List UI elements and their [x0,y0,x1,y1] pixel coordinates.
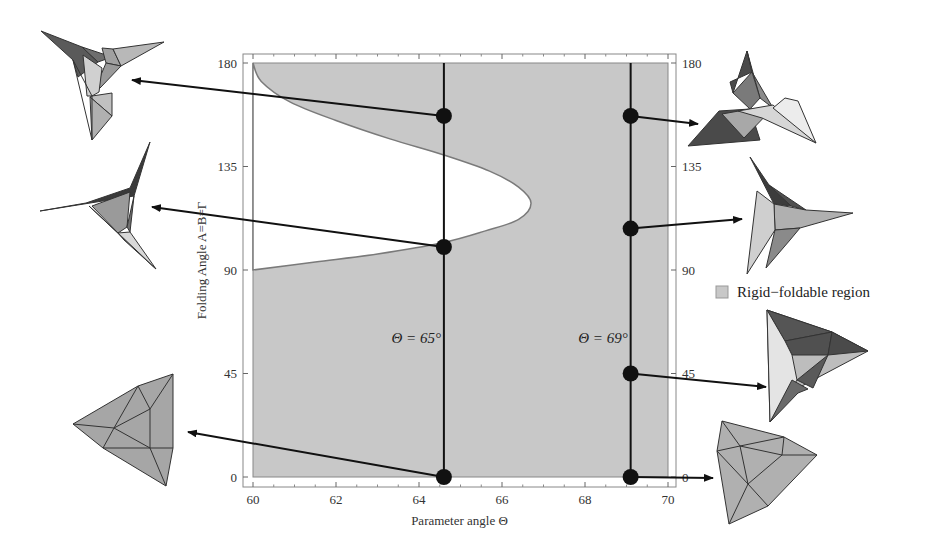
x-axis-label: Parameter angle Θ [411,513,508,528]
x-tick-label: 70 [662,492,675,507]
y-tick-label: 90 [224,263,237,278]
x-tick-label: 64 [413,492,427,507]
state-point-0-1 [436,239,452,255]
state-point-1-0 [623,108,639,124]
figure: 6062646668700045459090135135180180 Θ = 6… [0,0,931,558]
origami-inset-fold-69-45 [767,310,868,422]
origami-inset-fold-65-157 [41,31,164,140]
state-point-1-2 [623,366,639,382]
origami-inset-fold-69-157 [688,51,816,146]
y-tick-label: 135 [218,159,238,174]
y-tick-label-right: 180 [682,56,702,71]
y-tick-label-right: 135 [682,159,702,174]
y-tick-label: 180 [218,56,238,71]
y-tick-label: 45 [224,366,237,381]
origami-inset-fold-65-100 [40,142,156,269]
y-tick-label-right: 90 [682,263,695,278]
x-tick-label: 66 [496,492,510,507]
legend-label: Rigid−foldable region [737,284,871,300]
theta-annotation-1: Θ = 69° [578,330,627,346]
y-tick-label: 0 [231,470,238,485]
legend-swatch [716,286,728,298]
origami-inset-fold-65-0 [73,374,173,486]
x-tick-label: 60 [247,492,260,507]
x-tick-label: 62 [330,492,343,507]
arrow-fold-69-0 [631,477,713,478]
x-tick-label: 68 [579,492,592,507]
plot-area: 6062646668700045459090135135180180 Θ = 6… [132,54,766,528]
state-point-1-3 [623,469,639,485]
state-point-0-2 [436,469,452,485]
legend: Rigid−foldable region [716,284,871,300]
theta-annotation-0: Θ = 65° [391,330,440,346]
y-axis-label: Folding Angle A=B=Γ [194,201,209,319]
origami-inset-fold-69-0 [717,421,817,524]
state-point-0-0 [436,108,452,124]
state-point-1-1 [623,221,639,237]
origami-inset-fold-69-108 [747,157,853,274]
